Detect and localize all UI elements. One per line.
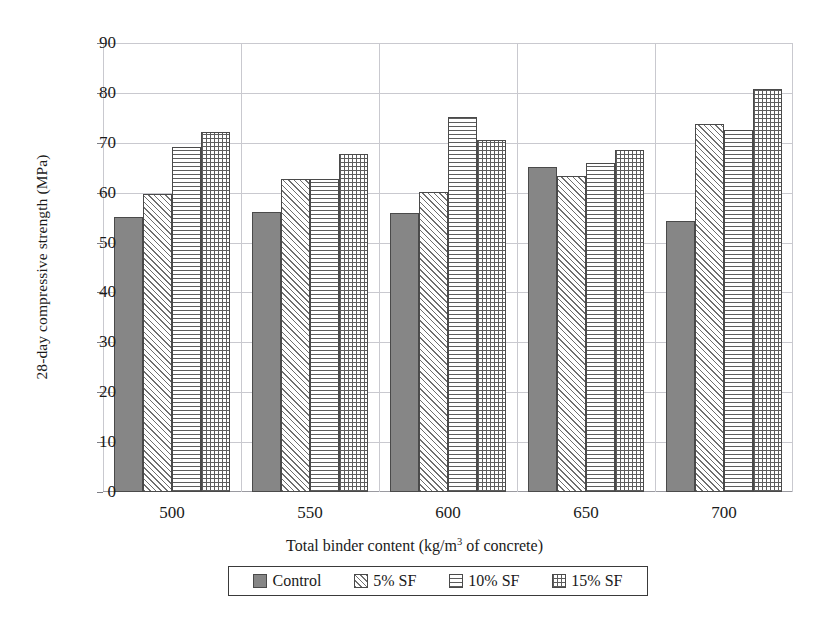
x-axis-title: Total binder content (kg/m3 of concrete) [0, 536, 829, 555]
bar-10-sf-500 [172, 147, 201, 492]
gridline-horizontal [103, 93, 793, 94]
legend-label: Control [272, 572, 321, 590]
x-axis-tick-label: 650 [526, 503, 646, 523]
y-axis-tick-label: 50 [68, 234, 116, 251]
bar-15-sf-650 [615, 150, 644, 492]
legend-swatch-icon [449, 574, 463, 588]
y-axis-tick-label: 20 [68, 383, 116, 400]
y-axis-line [103, 43, 104, 492]
chart-figure: 28-day compressive strength (MPa) Total … [0, 0, 829, 629]
bar-control-600 [390, 213, 419, 492]
bar-15-sf-500 [201, 132, 230, 492]
y-axis-tick-label: 10 [68, 433, 116, 450]
legend-label: 5% SF [373, 572, 416, 590]
bar-control-700 [666, 221, 695, 492]
x-axis-tick-label: 500 [112, 503, 232, 523]
bar-15-sf-600 [477, 140, 506, 492]
y-axis-tick-label: 30 [68, 333, 116, 350]
bar-10-sf-650 [586, 163, 615, 492]
y-axis-tick-label: 70 [68, 134, 116, 151]
x-axis-tick-label: 700 [664, 503, 784, 523]
bar-5-sf-500 [143, 194, 172, 492]
gridline-vertical [655, 43, 656, 492]
gridline-vertical [517, 43, 518, 492]
legend-item-control[interactable]: Control [253, 572, 321, 590]
x-axis-tick-label: 550 [250, 503, 370, 523]
bar-10-sf-700 [724, 130, 753, 492]
legend-label: 15% SF [571, 572, 622, 590]
bar-5-sf-700 [695, 124, 724, 492]
y-axis-tick-label: 90 [68, 34, 116, 51]
legend-swatch-icon [253, 574, 267, 588]
gridline-vertical [241, 43, 242, 492]
legend-swatch-icon [354, 574, 368, 588]
y-axis-tick-label: 0 [68, 483, 116, 500]
bar-control-650 [528, 167, 557, 492]
y-axis-tick-label: 40 [68, 283, 116, 300]
bar-control-550 [252, 212, 281, 492]
bar-5-sf-650 [557, 176, 586, 492]
bar-10-sf-550 [310, 179, 339, 492]
plot-area [103, 43, 793, 492]
bar-15-sf-700 [753, 89, 782, 492]
legend-swatch-icon [552, 574, 566, 588]
legend-item-5-sf[interactable]: 5% SF [354, 572, 416, 590]
y-axis-title: 28-day compressive strength (MPa) [33, 57, 51, 477]
bar-10-sf-600 [448, 117, 477, 492]
legend-item-10-sf[interactable]: 10% SF [449, 572, 519, 590]
y-axis-tick-label: 60 [68, 184, 116, 201]
legend-label: 10% SF [468, 572, 519, 590]
x-axis-title-prefix: Total binder content (kg/m [286, 537, 457, 554]
legend-item-15-sf[interactable]: 15% SF [552, 572, 622, 590]
bar-5-sf-550 [281, 179, 310, 492]
bar-15-sf-550 [339, 154, 368, 492]
gridline-vertical [792, 43, 793, 492]
gridline-vertical [379, 43, 380, 492]
x-axis-title-suffix: of concrete) [462, 537, 543, 554]
y-axis-tick-label: 80 [68, 84, 116, 101]
chart-legend: Control5% SF10% SF15% SF [228, 566, 648, 596]
bar-5-sf-600 [419, 192, 448, 492]
x-axis-tick-label: 600 [388, 503, 508, 523]
bar-control-500 [114, 217, 143, 492]
gridline-horizontal [103, 43, 793, 44]
